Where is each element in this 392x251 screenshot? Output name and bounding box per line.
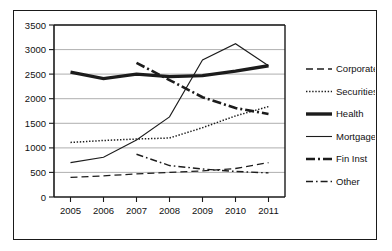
gridlines: [54, 25, 285, 172]
chart-frame: 3500 3000 2500 2000 1500 1000 500 0 2005…: [13, 10, 377, 240]
legend-label-corporate: Corporate: [336, 63, 375, 74]
x-tick-label: 2010: [225, 205, 246, 216]
x-tick-label: 2008: [159, 205, 180, 216]
data-series-group: [71, 44, 269, 178]
y-tick-label: 500: [30, 167, 46, 178]
series-line-health: [71, 66, 269, 79]
x-tick-label: 2006: [93, 205, 114, 216]
y-tick-label: 2500: [25, 69, 46, 80]
line-chart: 3500 3000 2500 2000 1500 1000 500 0 2005…: [14, 11, 375, 238]
legend-label-fin-inst: Fin Inst: [336, 153, 368, 164]
series-line-other: [137, 154, 269, 173]
y-tick-label: 2000: [25, 93, 46, 104]
legend-label-health: Health: [336, 108, 363, 119]
x-tick-label: 2011: [258, 205, 278, 216]
legend-label-other: Other: [336, 176, 360, 187]
chart-legend: CorporateSecuritiesHealthMortgageFin Ins…: [306, 63, 375, 186]
y-tick-labels: 3500 3000 2500 2000 1500 1000 500 0: [25, 20, 46, 203]
y-tick-label: 1500: [25, 118, 46, 129]
y-tick-label: 0: [41, 192, 46, 203]
y-tick-label: 3000: [25, 44, 46, 55]
legend-label-mortgage: Mortgage: [336, 131, 375, 142]
y-tick-label: 3500: [25, 20, 46, 31]
x-tick-label: 2007: [126, 205, 147, 216]
legend-label-securities: Securities: [336, 86, 375, 97]
series-line-securities: [71, 107, 269, 143]
y-tick-label: 1000: [25, 142, 46, 153]
series-line-mortgage: [71, 44, 269, 163]
x-tick-labels: 2005 2006 2007 2008 2009 2010 2011: [60, 205, 279, 216]
x-tick-label: 2009: [192, 205, 213, 216]
x-tick-label: 2005: [60, 205, 81, 216]
